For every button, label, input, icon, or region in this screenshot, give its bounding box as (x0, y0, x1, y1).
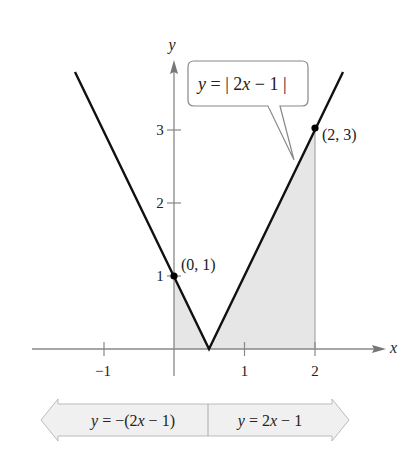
x-tick-label-2: 2 (311, 363, 319, 379)
x-tick-label-1: 1 (241, 363, 249, 379)
x-axis-label: x (389, 339, 397, 356)
x-axis-arrow-icon (372, 345, 386, 353)
banner-right-equation: y = 2x − 1 (236, 412, 302, 430)
point-0-1 (170, 272, 177, 279)
y-axis-arrow-icon (170, 60, 178, 74)
piecewise-banner: y = −(2x − 1) y = 2x − 1 (41, 399, 349, 441)
y-tick-label-1: 1 (156, 268, 164, 284)
point-0-1-label: (0, 1) (181, 256, 216, 274)
banner-double-arrow (41, 399, 349, 441)
point-2-3 (311, 124, 318, 131)
function-callout: y = | 2x − 1 | (188, 61, 308, 160)
x-tick-label-neg1: −1 (95, 363, 111, 379)
y-tick-label-2: 2 (156, 195, 164, 211)
y-axis-label: y (166, 36, 176, 54)
chart-figure: −1 1 2 x 1 2 3 y (0, 1) (2, 3) y = | 2x … (0, 0, 415, 460)
y-tick-label-3: 3 (156, 122, 164, 138)
banner-left-equation: y = −(2x − 1) (89, 412, 175, 430)
point-2-3-label: (2, 3) (322, 126, 357, 144)
callout-equation: y = | 2x − 1 | (196, 74, 287, 94)
shaded-region (174, 128, 315, 349)
